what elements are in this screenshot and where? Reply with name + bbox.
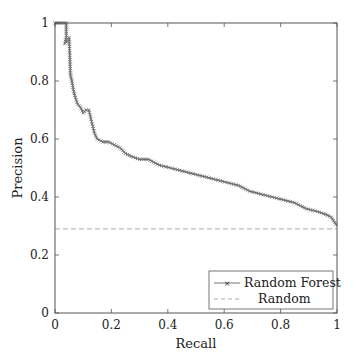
y-tick-label: 0.4 (30, 190, 49, 204)
legend-label-random-forest: Random Forest (244, 275, 341, 290)
y-tick-label: 0.8 (30, 74, 49, 88)
x-tick-label: 0 (51, 318, 59, 332)
random-forest-line (55, 23, 337, 226)
random-forest-markers (53, 21, 337, 225)
legend-label-random: Random (258, 291, 311, 306)
legend-marker-icon: × (224, 279, 231, 288)
y-tick-label: 0.6 (30, 132, 49, 146)
x-tick-label: 0.2 (102, 318, 121, 332)
x-axis-label: Recall (176, 336, 217, 351)
plot-area (53, 21, 337, 229)
y-axis-label: Precision (10, 137, 25, 199)
y-tick-label: 1 (41, 16, 49, 30)
x-tick-label: 1 (333, 318, 341, 332)
x-tick-label: 0.8 (271, 318, 290, 332)
precision-recall-chart: 00.20.40.60.8100.20.40.60.81 Recall Prec… (0, 0, 354, 360)
legend: × Random Forest Random (209, 271, 341, 309)
x-tick-label: 0.6 (215, 318, 234, 332)
axis-frame (55, 23, 337, 313)
y-tick-label: 0 (41, 306, 49, 320)
x-tick-label: 0.4 (158, 318, 177, 332)
y-tick-label: 0.2 (30, 248, 49, 262)
